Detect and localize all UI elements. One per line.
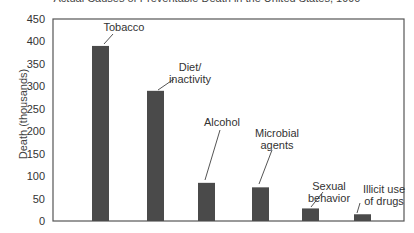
annotation-leader-line [104,34,113,44]
bar-annotation-label: Microbial [255,127,299,139]
bar-annotation-label: behavior [308,192,351,204]
bar-4 [302,208,319,221]
y-tick-label: 150 [27,148,45,160]
bar-chart: 050100150200250300350400450TobaccoDiet/i… [0,0,414,233]
bar-annotation-label: Alcohol [204,116,240,128]
bar-3 [252,187,269,221]
y-tick-label: 200 [27,125,45,137]
y-tick-label: 450 [27,13,45,25]
y-tick-label: 100 [27,170,45,182]
y-tick-label: 250 [27,103,45,115]
y-tick-label: 300 [27,80,45,92]
bar-annotation-label: Illicit use [363,183,405,195]
y-tick-label: 350 [27,58,45,70]
bar-annotation-label: Tobacco [104,21,145,33]
bar-annotation-label: inactivity [169,73,212,85]
y-tick-label: 400 [27,35,45,47]
bar-1 [147,91,164,221]
annotation-leader-line [259,150,272,184]
bar-annotation-label: Sexual [312,180,346,192]
y-tick-label: 0 [39,215,45,227]
annotation-leader-line [205,130,220,180]
bar-annotation-label: of drugs [364,195,404,207]
bar-annotation-label: Diet/ [179,61,203,73]
bar-5 [354,214,371,221]
bar-0 [92,46,109,221]
y-tick-label: 50 [33,193,45,205]
bar-2 [198,183,215,221]
annotation-leader-line [357,203,360,213]
bar-annotation-label: agents [260,139,294,151]
